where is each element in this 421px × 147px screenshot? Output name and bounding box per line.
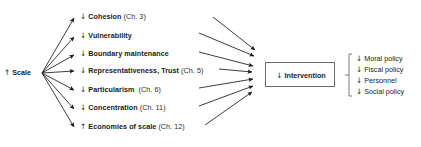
effect-term: Economies of scale (88, 122, 156, 131)
effect-term: Boundary maintenance (88, 49, 168, 58)
diagram-canvas: ↑ Scale ↓ Cohesion (Ch. 3) ↓ Vulnerabili… (0, 0, 421, 147)
arrow-particularism-to-intervention (199, 79, 253, 88)
effect-direction-arrow: ↓ (80, 31, 86, 40)
policy-label: Social policy (364, 87, 404, 96)
effect-cohesion: ↓ Cohesion (Ch. 3) (80, 12, 146, 21)
policy-label: Fiscal policy (364, 65, 403, 74)
effect-representativeness-trust: ↓ Representativeness, Trust (Ch. 5) (80, 66, 203, 75)
arrow-concentration-to-intervention (199, 86, 253, 106)
effect-direction-arrow: ↓ (80, 103, 86, 112)
policy-detail-list: ↓ Moral policy ↓ Fiscal policy ↓ Personn… (356, 53, 420, 97)
effect-particularism: ↓ Particularism (Ch. 6) (80, 85, 161, 94)
arrow-scale-to-cohesion (42, 18, 74, 73)
fan-in-arrows (199, 17, 255, 125)
arrow-scale-to-concentration (42, 73, 74, 109)
policy-item-social: ↓ Social policy (356, 86, 420, 97)
policy-bracket-line (345, 54, 352, 96)
intervention-label: ↓ Intervention (266, 63, 336, 88)
policy-direction-arrow: ↓ (356, 54, 362, 63)
arrow-economies-of-scale-to-intervention (205, 92, 252, 125)
policy-direction-arrow: ↓ (356, 87, 362, 96)
arrow-vulnerability-to-intervention (199, 33, 254, 56)
effect-direction-arrow: ↓ (80, 49, 86, 58)
arrow-scale-to-representativeness (42, 71, 74, 73)
effect-term: Vulnerability (88, 31, 132, 40)
effect-term: Cohesion (88, 12, 121, 21)
policy-direction-arrow: ↓ (356, 65, 362, 74)
node-scale: ↑ Scale (4, 68, 31, 77)
policy-item-personnel: ↓ Personnel (356, 75, 420, 86)
effect-concentration: ↓ Concentration (Ch. 11) (80, 103, 166, 112)
fan-out-arrows (42, 18, 74, 127)
effect-term: Representativeness, Trust (88, 66, 179, 75)
effect-term: Particularism (88, 85, 134, 94)
arrow-cohesion-to-intervention (213, 17, 255, 50)
effect-term: Concentration (88, 103, 137, 112)
arrow-representativeness-to-intervention (219, 69, 252, 72)
policy-item-moral: ↓ Moral policy (356, 53, 420, 64)
effect-chapter-ref: (Ch. 5) (181, 66, 203, 75)
effect-economies-of-scale: ↑ Economies of scale (Ch. 12) (80, 122, 185, 131)
policy-label: Moral policy (364, 54, 402, 63)
intervention-node: ↓ Intervention (265, 62, 335, 87)
policy-direction-arrow: ↓ (356, 76, 362, 85)
effect-direction-arrow: ↓ (80, 66, 86, 75)
effect-chapter-ref: (Ch. 11) (140, 103, 166, 112)
arrow-scale-to-vulnerability (42, 37, 74, 73)
effect-boundary-maintenance: ↓ Boundary maintenance (80, 49, 169, 58)
effect-direction-arrow: ↓ (80, 85, 86, 94)
intervention-direction-arrow: ↓ (276, 71, 282, 80)
effect-direction-arrow: ↑ (80, 122, 86, 131)
intervention-term: Intervention (285, 71, 326, 80)
effect-chapter-ref: (Ch. 3) (124, 12, 146, 21)
scale-term: Scale (12, 68, 31, 77)
arrow-boundary-maintenance-to-intervention (199, 52, 253, 66)
effect-chapter-ref: (Ch. 6) (139, 85, 161, 94)
effect-vulnerability: ↓ Vulnerability (80, 31, 132, 40)
effect-direction-arrow: ↓ (80, 12, 86, 21)
effect-chapter-ref: (Ch. 12) (158, 122, 184, 131)
policy-label: Personnel (364, 76, 396, 85)
policy-item-fiscal: ↓ Fiscal policy (356, 64, 420, 75)
